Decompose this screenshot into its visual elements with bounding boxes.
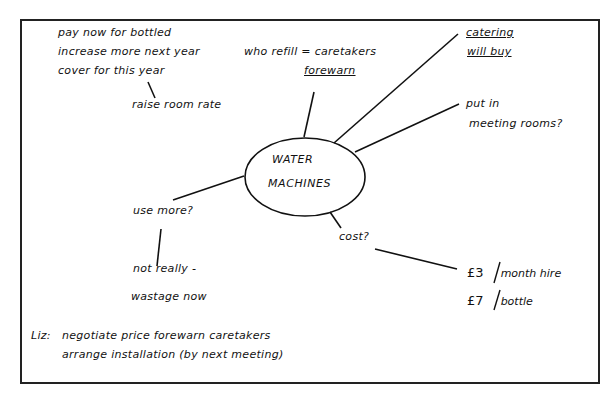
action-line2: arrange installation (by next meeting) bbox=[62, 348, 284, 361]
price-item-hire: £3 month hire bbox=[467, 262, 561, 281]
refill-line1: who refill = caretakers bbox=[244, 45, 376, 58]
price-amount: £3 bbox=[467, 265, 484, 280]
catering-line1: catering bbox=[466, 26, 514, 39]
use-more-answer1: not really - bbox=[133, 262, 196, 275]
topleft-line1: pay now for bottled bbox=[58, 26, 171, 39]
meeting-line1: put in bbox=[466, 97, 500, 110]
action-owner: Liz: bbox=[31, 329, 51, 342]
raise-room-rate: raise room rate bbox=[132, 98, 221, 111]
price-unit: bottle bbox=[501, 295, 533, 308]
use-more-answer2: wastage now bbox=[131, 290, 207, 303]
price-unit: month hire bbox=[501, 267, 562, 280]
center-label-line1: WATER bbox=[272, 153, 313, 166]
price-amount: £7 bbox=[467, 293, 484, 308]
meeting-line2: meeting rooms? bbox=[469, 117, 563, 130]
price-item-bottle: £7 bottle bbox=[467, 290, 533, 309]
use-more-question: use more? bbox=[133, 204, 193, 217]
topleft-line3: cover for this year bbox=[58, 64, 165, 77]
cost-question: cost? bbox=[339, 230, 369, 243]
catering-line2: will buy bbox=[467, 45, 512, 58]
refill-forewarn: forewarn bbox=[304, 64, 356, 77]
action-line1: negotiate price forewarn caretakers bbox=[62, 329, 271, 342]
topleft-line2: increase more next year bbox=[58, 45, 200, 58]
center-label-line2: MACHINES bbox=[268, 177, 331, 190]
